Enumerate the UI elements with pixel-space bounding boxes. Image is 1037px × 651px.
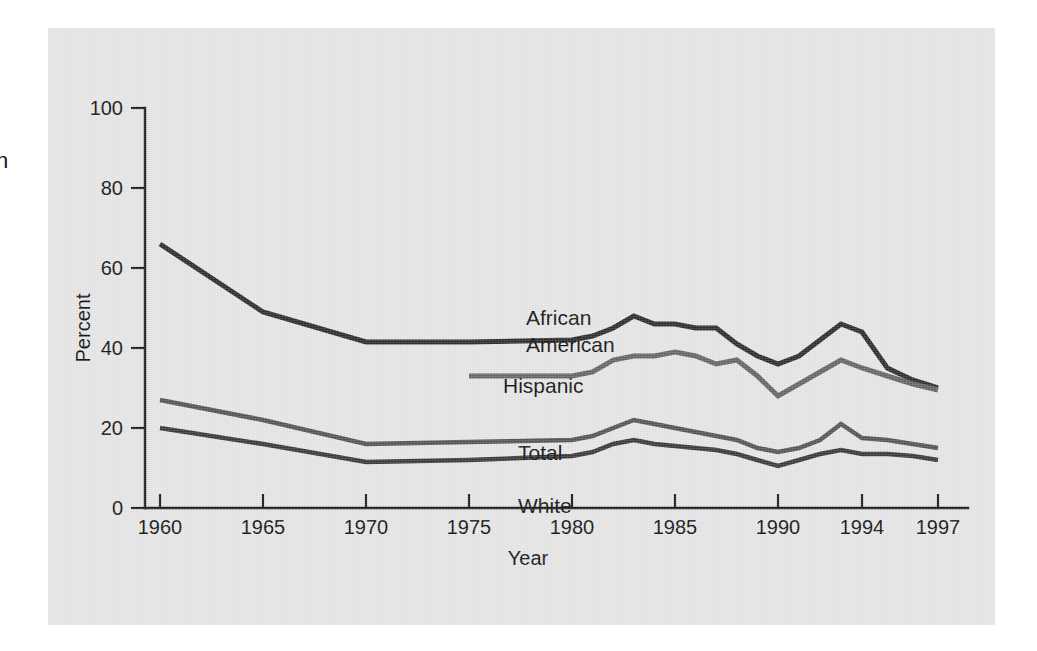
x-axis-title: Year: [508, 547, 549, 569]
series-label-line: Total: [518, 441, 562, 464]
series-label-line: Hispanic: [503, 374, 584, 397]
x-tick-label: 1960: [138, 516, 183, 538]
y-tick-label: 60: [101, 257, 123, 279]
x-axis-tick-labels: 196019651970197519801985199019941997: [138, 516, 961, 538]
x-tick-label: 1980: [550, 516, 595, 538]
y-axis-title: Percent: [72, 293, 94, 362]
y-axis-tick-labels: 020406080100: [90, 97, 123, 519]
x-tick-label: 1970: [344, 516, 389, 538]
x-tick-label: 1994: [840, 516, 885, 538]
x-tick-label: 1965: [241, 516, 286, 538]
series-label-line: American: [526, 333, 615, 356]
chart-panel: 020406080100 196019651970197519801985199…: [48, 28, 995, 625]
y-tick-label: 20: [101, 417, 123, 439]
margin-text-fragment: n: [0, 148, 8, 174]
line-chart: 020406080100 196019651970197519801985199…: [48, 28, 995, 625]
x-tick-label: 1997: [916, 516, 961, 538]
series-label-group: AfricanAmericanHispanicTotalWhite: [503, 306, 615, 517]
series-label-white: White: [518, 494, 572, 517]
x-tick-label: 1975: [447, 516, 492, 538]
y-tick-label: 80: [101, 177, 123, 199]
y-tick-label: 0: [112, 497, 123, 519]
series-label-line: White: [518, 494, 572, 517]
y-axis-ticks: [131, 108, 145, 508]
series-label-line: African: [526, 306, 591, 329]
series-label-hispanic: Hispanic: [503, 374, 584, 397]
series-label-total: Total: [518, 441, 562, 464]
y-tick-label: 100: [90, 97, 123, 119]
figure-page: n 020406080100 1960196519701975198019851…: [0, 0, 1037, 651]
x-tick-label: 1985: [653, 516, 698, 538]
y-tick-label: 40: [101, 337, 123, 359]
x-tick-label: 1990: [756, 516, 801, 538]
